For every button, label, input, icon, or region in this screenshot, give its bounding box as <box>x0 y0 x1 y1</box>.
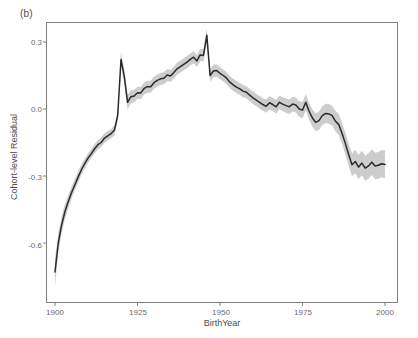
y-tick-label: 0.0 <box>16 105 42 114</box>
y-axis-ticks <box>43 42 47 243</box>
panel-border <box>47 23 398 303</box>
x-tick-label: 1900 <box>35 308 75 317</box>
y-tick-labels: 0.3 0.0 -0.3 -0.6 <box>0 0 42 338</box>
y-tick-label: -0.3 <box>16 173 42 182</box>
confidence-band <box>55 29 385 286</box>
x-tick-label: 2000 <box>365 308 405 317</box>
chart-figure: (b) Cohort-level Residual BirthYear 0.3 … <box>0 0 418 338</box>
x-tick-label: 1950 <box>201 308 241 317</box>
x-tick-label: 1925 <box>118 308 158 317</box>
y-tick-label: -0.6 <box>16 241 42 250</box>
plot-area <box>0 0 418 338</box>
y-tick-label: 0.3 <box>16 38 42 47</box>
x-tick-labels: 1900 1925 1950 1975 2000 <box>0 308 418 322</box>
x-tick-label: 1975 <box>283 308 323 317</box>
x-axis-ticks <box>55 303 385 307</box>
